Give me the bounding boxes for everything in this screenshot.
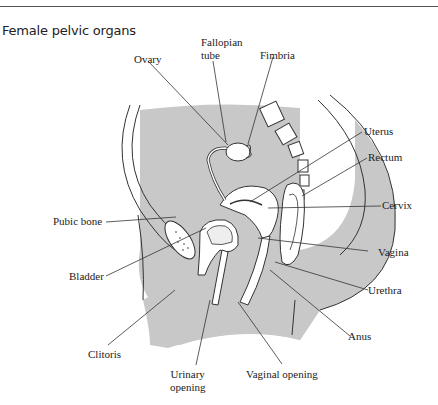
label-fallopian-tube-line2: tube (201, 49, 243, 62)
label-urinary-opening-line2: opening (170, 381, 205, 394)
label-fallopian-tube-line1: Fallopian (201, 36, 243, 49)
label-urinary-opening: Urinary opening (170, 368, 205, 394)
label-bladder: Bladder (69, 270, 104, 283)
label-urinary-opening-line1: Urinary (170, 368, 205, 381)
label-fallopian-tube: Fallopian tube (201, 36, 243, 62)
label-uterus: Uterus (364, 125, 393, 138)
label-rectum: Rectum (368, 151, 402, 164)
label-urethra: Urethra (368, 284, 402, 297)
label-vaginal-opening: Vaginal opening (246, 368, 318, 381)
label-fimbria: Fimbria (260, 49, 295, 62)
label-pubic-bone: Pubic bone (53, 215, 102, 228)
label-cervix: Cervix (382, 199, 412, 212)
label-vagina: Vagina (378, 246, 409, 259)
label-ovary: Ovary (134, 53, 162, 66)
label-clitoris: Clitoris (88, 348, 121, 361)
label-anus: Anus (348, 330, 371, 343)
bladder-inner (207, 226, 232, 245)
